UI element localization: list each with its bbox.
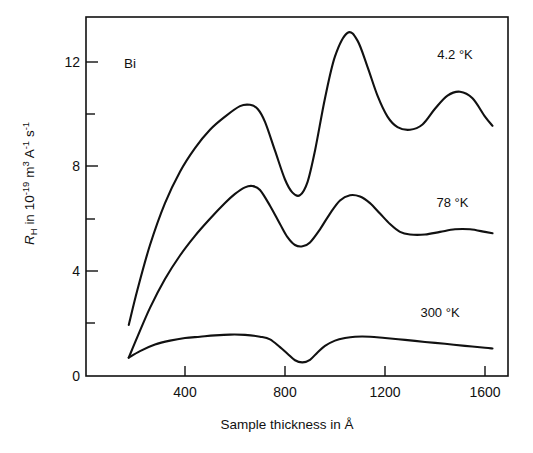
x-tick-label-1600: 1600 <box>469 384 500 400</box>
y-axis-ticks <box>86 62 98 323</box>
series-curve-4p2k <box>129 32 493 325</box>
y-axis-unit-m: m <box>22 167 37 182</box>
y-axis-unit-a: A <box>22 149 37 161</box>
y-tick-label-12: 12 <box>64 54 80 70</box>
y-axis-exp-a: -1 <box>20 141 31 149</box>
y-axis-unit-s: s <box>22 130 37 141</box>
svg-text:RH in 10-19 m3 A-1 s-1: RH in 10-19 m3 A-1 s-1 <box>20 122 39 245</box>
y-axis-title: RH in 10-19 m3 A-1 s-1 <box>20 122 39 245</box>
x-axis-title: Sample thickness in Å <box>221 417 354 432</box>
x-tick-label-1200: 1200 <box>369 384 400 400</box>
y-axis-symbol: R <box>22 235 37 245</box>
y-axis-exp-19: -19 <box>20 182 31 196</box>
x-axis-ticks <box>185 366 485 376</box>
y-tick-label-8: 8 <box>72 158 80 174</box>
y-tick-label-4: 4 <box>72 263 80 279</box>
x-tick-label-800: 800 <box>273 384 297 400</box>
material-annotation: Bi <box>124 56 136 71</box>
series-label-4p2k: 4.2 °K <box>437 47 473 62</box>
hall-coefficient-chart: 12 8 4 0 400 800 1200 1600 Sample thickn… <box>0 0 533 453</box>
series-curve-300k <box>129 335 493 363</box>
y-axis-exp-s: -1 <box>20 122 31 130</box>
y-axis-text-in: in 10 <box>22 195 37 228</box>
series-label-300k: 300 °K <box>420 305 460 320</box>
y-tick-label-0: 0 <box>72 368 80 384</box>
series-label-78k: 78 °K <box>437 195 469 210</box>
x-tick-label-400: 400 <box>173 384 197 400</box>
series-curve-78k <box>129 186 493 358</box>
